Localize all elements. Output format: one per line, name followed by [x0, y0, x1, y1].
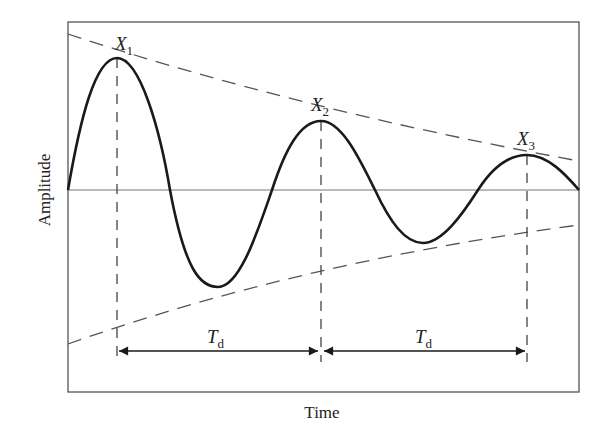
damped-curve	[68, 58, 579, 287]
y-axis-label: Amplitude	[35, 154, 54, 227]
period-label-1: Td	[207, 326, 225, 351]
x-axis-label: Time	[304, 403, 339, 422]
plot-frame	[68, 22, 579, 392]
damped-vibration-diagram: X1 X2 X3 Td Td Time Amplitude	[0, 0, 604, 442]
upper-envelope	[68, 34, 579, 161]
period-label-2: Td	[415, 326, 433, 351]
peak-label-1: X1	[114, 33, 133, 58]
peak-label-2: X2	[310, 94, 329, 119]
lower-envelope	[68, 225, 579, 344]
